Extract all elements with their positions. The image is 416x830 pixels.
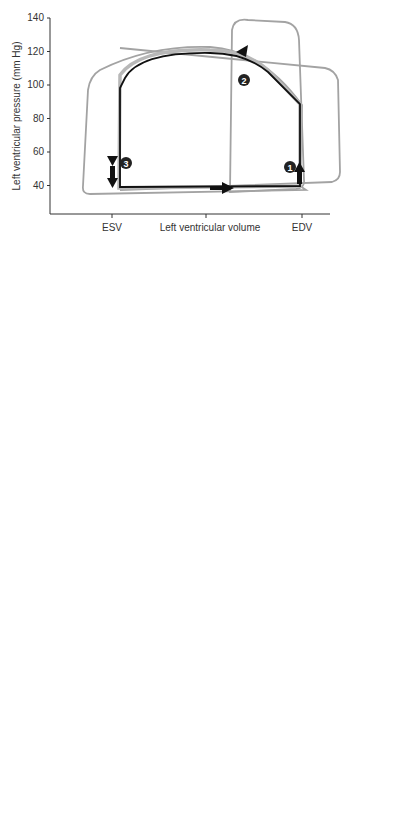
phase-badges: 1 2 3	[120, 74, 296, 173]
pv-x-axis-label: Left ventricular volume	[160, 222, 261, 233]
pv-ytick: 60	[33, 146, 45, 157]
pv-shadow-loop	[119, 50, 300, 188]
cardiac-cycle-figure: 140 120 100 80 60 40 Left ventricular pr…	[0, 0, 416, 830]
pv-xtick-edv: EDV	[292, 222, 313, 233]
pv-ytick: 140	[27, 12, 44, 23]
pv-ytick: 120	[27, 46, 44, 57]
pv-x-axis: ESV Left ventricular volume EDV	[50, 214, 330, 233]
phase-3-badge: 3	[123, 159, 128, 169]
pv-xtick-esv: ESV	[102, 222, 122, 233]
pv-ytick: 80	[33, 113, 45, 124]
pv-y-axis-label: Left ventricular pressure (mm Hg)	[11, 42, 22, 191]
pv-ytick: 100	[27, 79, 44, 90]
pv-ytick: 40	[33, 180, 45, 191]
phase-2-badge: 2	[241, 76, 246, 86]
pv-loop-chart: 140 120 100 80 60 40 Left ventricular pr…	[11, 12, 340, 233]
contractility-loop	[83, 47, 306, 194]
pv-y-axis: 140 120 100 80 60 40 Left ventricular pr…	[11, 12, 50, 214]
phase-1-badge: 1	[287, 163, 292, 173]
flow-arrows	[107, 45, 305, 194]
